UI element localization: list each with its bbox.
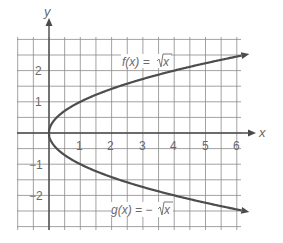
x-tick-label: 5 — [202, 139, 209, 153]
sqrt-function-graph: y x 1 2 3 4 5 6 2 1 −1 −2 f(x) = x g(x) … — [0, 0, 283, 243]
x-axis-label: x — [258, 125, 266, 140]
y-tick-label: 2 — [35, 64, 42, 78]
x-tick-label: 6 — [233, 139, 240, 153]
f-function-label: f(x) = — [122, 55, 150, 69]
g-label-radicand: x — [163, 203, 171, 217]
f-label-prefix: f(x) = — [122, 55, 150, 69]
y-tick-label: −1 — [29, 158, 43, 172]
g-label-prefix: g(x) = − — [111, 203, 152, 217]
x-tick-label: 2 — [107, 139, 114, 153]
x-tick-label: 1 — [76, 139, 83, 153]
y-tick-label: −2 — [29, 189, 43, 203]
x-tick-label: 3 — [139, 139, 146, 153]
y-axis-label: y — [43, 4, 52, 19]
curve-g-arrow-icon — [241, 207, 250, 214]
curve-f-arrow-icon — [241, 52, 250, 59]
g-function-label: g(x) = − — [111, 203, 152, 217]
x-tick-label: 4 — [170, 139, 177, 153]
y-tick-label: 1 — [35, 95, 42, 109]
x-axis-arrow-icon — [248, 130, 256, 137]
f-label-radicand: x — [162, 55, 170, 69]
y-axis-arrow-icon — [46, 18, 53, 26]
